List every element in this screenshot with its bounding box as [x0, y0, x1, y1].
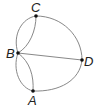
edge-a-d: [33, 60, 82, 91]
label-d: D: [84, 54, 93, 69]
edge-c-d: [36, 16, 82, 60]
edge-b-a-inner: [18, 53, 33, 91]
edge-b-c-inner: [18, 16, 36, 53]
label-b: B: [6, 46, 15, 61]
label-a: A: [27, 93, 37, 107]
label-c: C: [31, 0, 41, 15]
edge-b-d: [18, 53, 82, 60]
graph-diagram: C B D A: [0, 0, 99, 107]
node-b: [16, 51, 20, 55]
